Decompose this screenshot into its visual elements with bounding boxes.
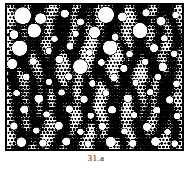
figure-container: 31.a <box>0 0 192 170</box>
halftone-plate-image <box>7 5 182 149</box>
figure-caption: 31.a <box>0 153 192 164</box>
figure-plate-frame <box>5 3 184 151</box>
